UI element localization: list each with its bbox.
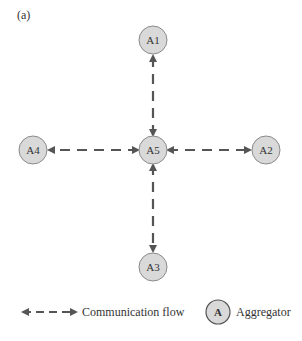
- legend-flow-label: Communication flow: [82, 305, 185, 319]
- node-a3: A3: [139, 253, 167, 281]
- node-a1: A1: [139, 26, 167, 54]
- node-a2: A2: [252, 136, 280, 164]
- legend-aggregator-label: Aggregator: [236, 305, 291, 319]
- node-label-a4: A4: [26, 144, 40, 156]
- node-label-a2: A2: [259, 144, 272, 156]
- node-a4: A4: [19, 136, 47, 164]
- legend-aggregator-symbol: A: [214, 306, 222, 318]
- node-label-a1: A1: [146, 34, 159, 46]
- node-label-a3: A3: [146, 261, 160, 273]
- node-label-a5: A5: [146, 144, 160, 156]
- node-a5: A5: [139, 136, 167, 164]
- legend: Communication flow A Aggregator: [23, 300, 291, 324]
- star-topology-diagram: A1 A2 A3 A4 A5 Communication flow A Aggr…: [0, 0, 302, 341]
